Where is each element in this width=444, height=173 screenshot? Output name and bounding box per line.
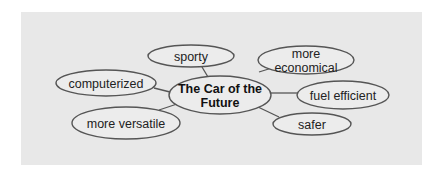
- idea-label: safer: [298, 118, 326, 132]
- idea-label: more versatile: [87, 117, 166, 131]
- central-topic-node: The Car of theFuture: [169, 76, 271, 114]
- idea-node-safer: safer: [273, 113, 351, 135]
- idea-label: sporty: [174, 50, 209, 64]
- idea-node-computerized: computerized: [56, 70, 156, 96]
- idea-label: economical: [274, 61, 337, 75]
- idea-node-fuel-efficient: fuel efficient: [297, 81, 389, 109]
- idea-label: fuel efficient: [310, 89, 377, 103]
- idea-node-more-economical: moreeconomical: [258, 46, 354, 75]
- idea-label: more: [292, 47, 321, 61]
- central-topic-label: Future: [201, 96, 240, 110]
- idea-node-more-versatile: more versatile: [72, 107, 180, 139]
- central-topic-label: The Car of the: [178, 82, 262, 96]
- car-of-the-future-cluster-diagram: sportycomputerizedmore versatilemoreecon…: [0, 0, 444, 173]
- idea-label: computerized: [68, 77, 143, 91]
- idea-node-sporty: sporty: [148, 45, 234, 67]
